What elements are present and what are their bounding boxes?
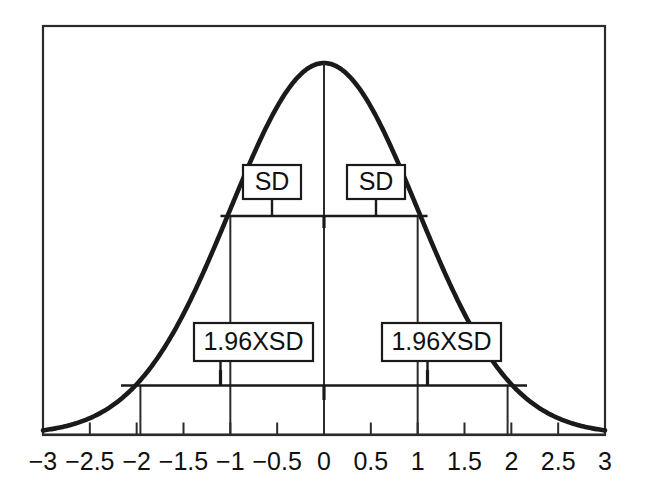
- x-tick-label-0: −3: [29, 447, 58, 475]
- x-tick-label-2: −2: [122, 447, 151, 475]
- x-tick-label-11: 2.5: [541, 447, 576, 475]
- sd-right-label: SD: [359, 167, 394, 195]
- bell-curve-figure-root: SD SD 1.96XSD 1.96XSD −3−2.5−2−1.5−1−0.5…: [0, 0, 646, 494]
- x-tick-label-8: 1: [411, 447, 425, 475]
- ci-right-label: 1.96XSD: [391, 327, 491, 355]
- x-tick-label-1: −2.5: [65, 447, 114, 475]
- x-tick-label-7: 0.5: [353, 447, 388, 475]
- x-tick-label-5: −0.5: [252, 447, 301, 475]
- x-tick-label-3: −1.5: [159, 447, 208, 475]
- x-axis-tick-labels: −3−2.5−2−1.5−1−0.500.511.522.53: [29, 447, 612, 475]
- normal-distribution-chart: SD SD 1.96XSD 1.96XSD −3−2.5−2−1.5−1−0.5…: [0, 0, 646, 494]
- x-tick-label-12: 3: [598, 447, 612, 475]
- x-tick-label-10: 2: [504, 447, 518, 475]
- x-tick-label-9: 1.5: [447, 447, 482, 475]
- ci-left-label: 1.96XSD: [203, 327, 303, 355]
- x-tick-label-6: 0: [317, 447, 331, 475]
- x-tick-label-4: −1: [216, 447, 245, 475]
- sd-left-label: SD: [255, 167, 290, 195]
